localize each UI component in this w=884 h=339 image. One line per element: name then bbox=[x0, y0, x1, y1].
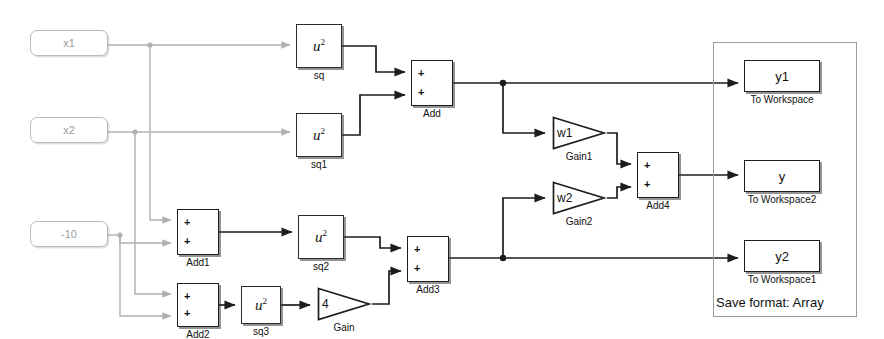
source-block-constant[interactable]: -10 bbox=[30, 221, 108, 247]
sum-port-sign-1: + bbox=[184, 217, 190, 228]
sum-port-sign-2: + bbox=[418, 87, 424, 98]
block-caption-to-workspace1: To Workspace1 bbox=[744, 275, 820, 285]
sum-block-add2[interactable]: + + bbox=[177, 283, 219, 327]
simulink-diagram-canvas: Save format: Array x1 x2 -10 u2 sq u2 sq… bbox=[0, 0, 884, 339]
to-workspace-block-y2[interactable]: y2 bbox=[744, 240, 820, 272]
block-caption-gain2: Gain2 bbox=[551, 217, 607, 227]
block-caption-gain1: Gain1 bbox=[551, 152, 607, 162]
math-expression: u2 bbox=[313, 38, 325, 54]
math-block-sq[interactable]: u2 bbox=[296, 24, 342, 68]
to-workspace-block-y1[interactable]: y1 bbox=[744, 60, 820, 92]
math-block-sq1[interactable]: u2 bbox=[296, 113, 342, 157]
sum-port-sign-1: + bbox=[184, 291, 190, 302]
sum-block-add[interactable]: + + bbox=[411, 60, 453, 106]
sum-port-sign-2: + bbox=[644, 179, 650, 190]
source-block-x1[interactable]: x1 bbox=[30, 30, 108, 56]
source-label-constant: -10 bbox=[61, 228, 77, 240]
math-expression: u2 bbox=[313, 127, 325, 143]
gain-value: w2 bbox=[557, 192, 572, 204]
to-workspace-block-y[interactable]: y bbox=[744, 160, 820, 192]
gain-block-gain[interactable]: 4 bbox=[316, 286, 372, 322]
math-block-sq3[interactable]: u2 bbox=[241, 286, 281, 324]
block-caption-add4: Add4 bbox=[637, 201, 679, 211]
light-wire-group bbox=[108, 42, 290, 316]
math-block-sq2[interactable]: u2 bbox=[298, 215, 344, 259]
block-caption-sq2: sq2 bbox=[298, 262, 344, 272]
source-label-x2: x2 bbox=[63, 124, 75, 136]
save-format-annotation: Save format: Array bbox=[716, 296, 824, 309]
block-caption-add2: Add2 bbox=[177, 330, 219, 339]
to-workspace-variable: y1 bbox=[775, 69, 789, 84]
block-caption-to-workspace2: To Workspace2 bbox=[744, 195, 820, 205]
sum-port-sign-2: + bbox=[184, 308, 190, 319]
sum-port-sign-1: + bbox=[414, 244, 420, 255]
math-expression: u2 bbox=[315, 229, 327, 245]
block-caption-to-workspace: To Workspace bbox=[744, 95, 820, 105]
sum-block-add4[interactable]: + + bbox=[637, 152, 679, 198]
block-caption-add1: Add1 bbox=[177, 258, 219, 268]
block-caption-gain: Gain bbox=[316, 323, 372, 333]
block-caption-add: Add bbox=[411, 109, 453, 119]
gain-block-gain2[interactable]: w2 bbox=[551, 180, 607, 216]
sum-port-sign-2: + bbox=[184, 236, 190, 247]
source-block-x2[interactable]: x2 bbox=[30, 117, 108, 143]
block-caption-sq: sq bbox=[296, 71, 342, 81]
sum-block-add3[interactable]: + + bbox=[407, 236, 449, 282]
sum-port-sign-1: + bbox=[418, 68, 424, 79]
sum-port-sign-2: + bbox=[414, 263, 420, 274]
block-caption-add3: Add3 bbox=[407, 285, 449, 295]
sum-block-add1[interactable]: + + bbox=[177, 209, 219, 255]
to-workspace-variable: y2 bbox=[775, 249, 789, 264]
to-workspace-variable: y bbox=[779, 169, 786, 184]
gain-value: w1 bbox=[557, 127, 572, 139]
sum-port-sign-1: + bbox=[644, 160, 650, 171]
math-expression: u2 bbox=[255, 297, 267, 313]
gain-value: 4 bbox=[322, 298, 329, 310]
block-caption-sq1: sq1 bbox=[296, 160, 342, 170]
gain-block-gain1[interactable]: w1 bbox=[551, 115, 607, 151]
source-label-x1: x1 bbox=[63, 37, 75, 49]
block-caption-sq3: sq3 bbox=[241, 327, 281, 337]
